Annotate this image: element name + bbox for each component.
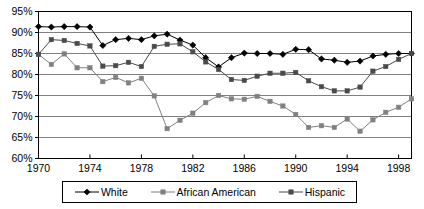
square-marker	[396, 105, 400, 109]
square-marker	[294, 70, 298, 74]
square-marker	[62, 38, 66, 42]
square-marker	[126, 81, 130, 85]
square-marker	[113, 75, 117, 79]
square-marker	[191, 111, 195, 115]
legend-swatch	[150, 187, 176, 197]
square-marker	[75, 66, 79, 70]
square-marker	[319, 124, 323, 128]
square-marker	[371, 118, 375, 122]
x-tick-marks	[35, 12, 399, 159]
diamond-marker	[254, 50, 260, 56]
square-marker	[268, 99, 272, 103]
square-marker	[139, 64, 143, 68]
square-marker	[36, 52, 40, 56]
diamond-marker	[87, 24, 93, 30]
square-marker	[191, 50, 195, 54]
diamond-marker	[331, 57, 337, 63]
square-marker	[358, 85, 362, 89]
square-marker	[204, 100, 208, 104]
square-marker	[371, 69, 375, 73]
square-marker	[216, 93, 220, 97]
square-marker	[229, 97, 233, 101]
diamond-marker	[280, 51, 286, 57]
diamond-marker	[241, 50, 247, 56]
square-marker	[216, 67, 220, 71]
square-marker	[281, 104, 285, 108]
square-marker	[396, 57, 400, 61]
square-marker	[49, 62, 53, 66]
legend-item[interactable]: African American	[150, 187, 256, 198]
square-marker	[101, 79, 105, 83]
square-marker	[126, 60, 130, 64]
square-marker	[139, 76, 143, 80]
square-marker	[409, 97, 413, 101]
square-marker	[88, 44, 92, 48]
square-marker	[345, 117, 349, 121]
square-marker	[358, 129, 362, 133]
square-marker	[165, 42, 169, 46]
square-marker	[242, 97, 246, 101]
series-line	[39, 40, 412, 91]
square-marker	[281, 71, 285, 75]
square-marker	[255, 94, 259, 98]
diamond-marker	[61, 24, 67, 30]
square-marker	[242, 78, 246, 82]
diamond-marker	[100, 42, 106, 48]
square-marker	[289, 190, 293, 194]
square-marker	[384, 110, 388, 114]
square-marker	[178, 118, 182, 122]
square-marker	[268, 71, 272, 75]
square-marker	[62, 52, 66, 56]
square-marker	[152, 94, 156, 98]
square-marker	[101, 64, 105, 68]
square-marker	[165, 126, 169, 130]
diamond-marker	[293, 46, 299, 52]
legend-item[interactable]: White	[74, 187, 128, 198]
square-marker	[332, 89, 336, 93]
diamond-marker	[267, 50, 273, 56]
square-marker	[160, 190, 164, 194]
legend-item[interactable]: Hispanic	[278, 187, 345, 198]
diamond-marker	[396, 50, 402, 56]
square-marker	[319, 84, 323, 88]
square-marker	[345, 89, 349, 93]
square-marker	[294, 112, 298, 116]
series-line	[39, 54, 412, 131]
square-marker	[255, 74, 259, 78]
line-chart: 60%65%70%75%80%85%90%95% 197019741978198…	[0, 0, 424, 209]
diamond-marker	[357, 58, 363, 64]
square-marker	[306, 125, 310, 129]
diamond-marker	[35, 24, 41, 30]
diamond-marker	[383, 51, 389, 57]
square-marker	[332, 125, 336, 129]
legend-swatch	[74, 187, 100, 197]
square-marker	[409, 51, 413, 55]
square-marker	[384, 64, 388, 68]
diamond-marker	[151, 33, 157, 39]
diamond-marker	[125, 35, 131, 41]
diamond-marker	[344, 59, 350, 65]
gridlines	[39, 33, 412, 138]
square-marker	[88, 66, 92, 70]
square-marker	[178, 42, 182, 46]
diamond-marker	[48, 24, 54, 30]
square-marker	[49, 37, 53, 41]
legend: WhiteAfrican AmericanHispanic	[62, 181, 357, 203]
legend-label: White	[101, 187, 128, 198]
plot-area	[0, 0, 424, 209]
diamond-marker	[113, 37, 119, 43]
diamond-marker	[138, 37, 144, 43]
square-marker	[75, 41, 79, 45]
square-marker	[204, 60, 208, 64]
diamond-marker	[74, 24, 80, 30]
diamond-marker	[84, 189, 90, 195]
square-marker	[306, 79, 310, 83]
square-marker	[229, 77, 233, 81]
legend-label: African American	[177, 187, 256, 198]
square-marker	[152, 44, 156, 48]
legend-swatch	[278, 187, 304, 197]
legend-label: Hispanic	[305, 187, 345, 198]
square-marker	[113, 63, 117, 67]
data-series	[36, 37, 413, 93]
data-series	[36, 52, 413, 134]
